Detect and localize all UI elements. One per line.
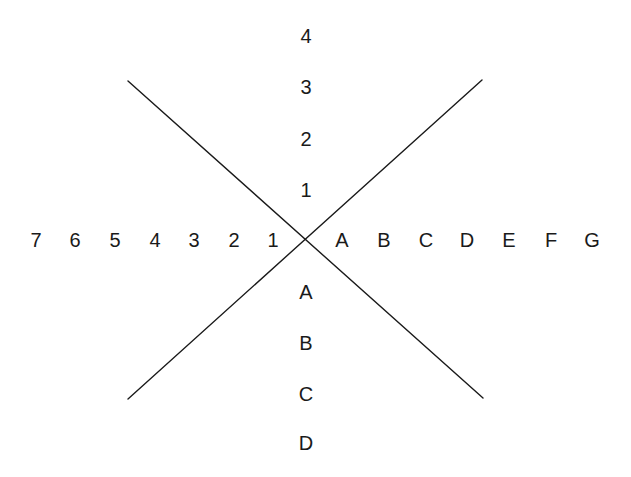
x-axis-negative-tick-label: 7 [30,230,41,250]
y-axis-negative-tick-label: A [299,282,312,302]
x-axis-negative-tick-label: 1 [267,230,278,250]
x-axis-positive-tick-label: E [502,230,515,250]
crossing-lines-layer [0,0,631,477]
x-axis-negative-tick-label: 3 [188,230,199,250]
y-axis-negative-tick-label: C [299,384,313,404]
x-axis-positive-tick-label: B [377,230,390,250]
x-axis-negative-tick-label: 5 [109,230,120,250]
x-axis-positive-tick-label: A [335,230,348,250]
x-axis-positive-tick-label: F [545,230,557,250]
y-axis-positive-tick-label: 4 [300,26,311,46]
x-axis-negative-tick-label: 6 [69,230,80,250]
diagram-canvas: 7654321ABCDEFG4321ABCD [0,0,631,477]
y-axis-positive-tick-label: 2 [300,129,311,149]
x-axis-positive-tick-label: D [460,230,474,250]
y-axis-negative-tick-label: B [299,333,312,353]
y-axis-positive-tick-label: 3 [300,77,311,97]
x-axis-negative-tick-label: 4 [149,230,160,250]
x-axis-positive-tick-label: C [419,230,433,250]
y-axis-positive-tick-label: 1 [300,180,311,200]
x-axis-positive-tick-label: G [584,230,600,250]
x-axis-negative-tick-label: 2 [228,230,239,250]
y-axis-negative-tick-label: D [299,433,313,453]
